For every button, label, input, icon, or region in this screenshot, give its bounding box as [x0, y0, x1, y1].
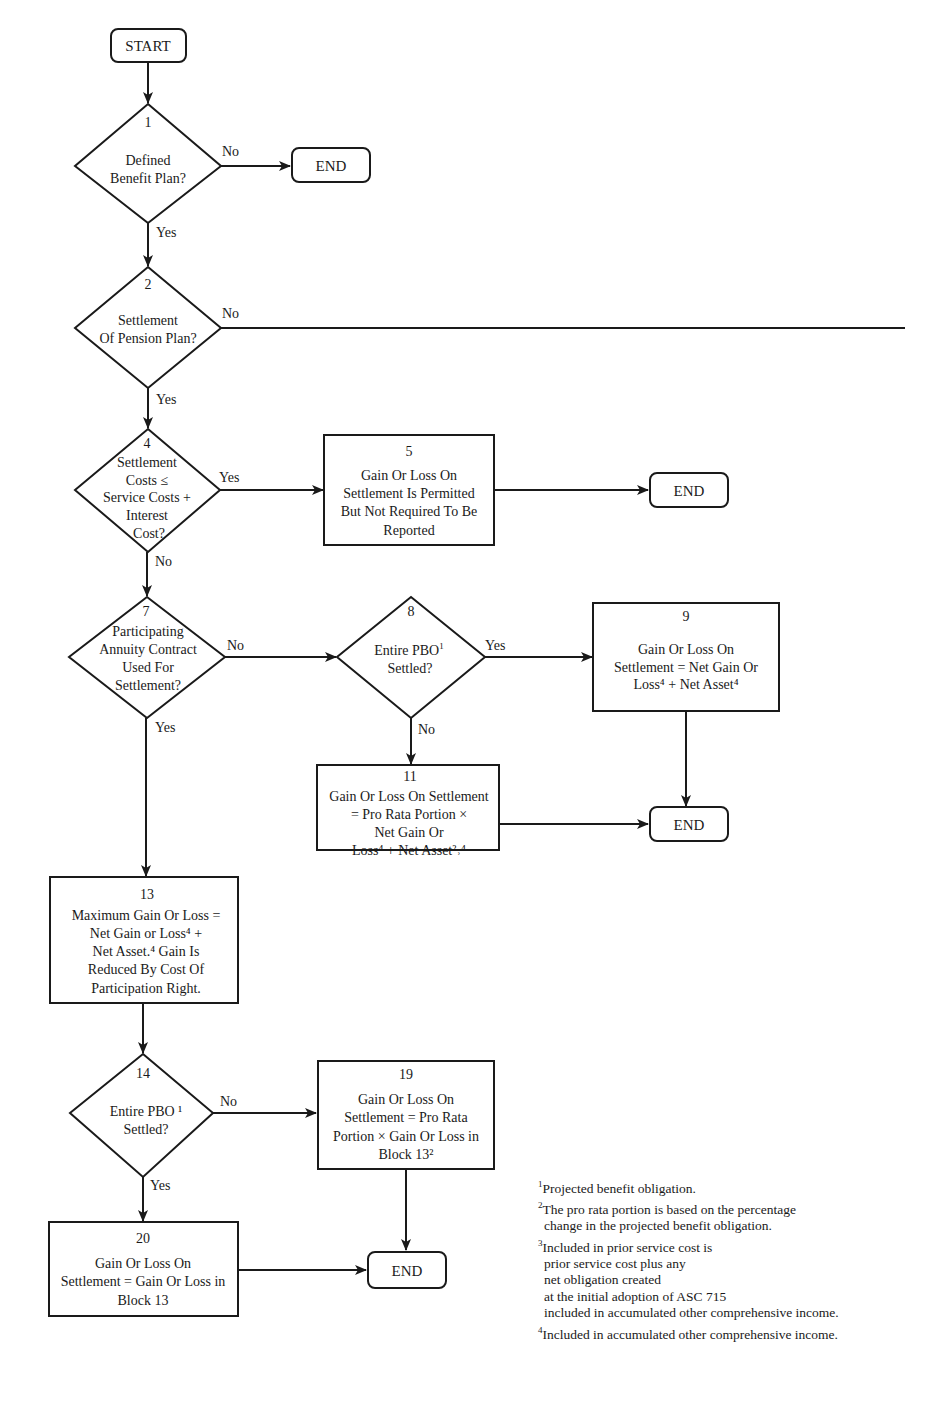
- svg-text:Block 13²: Block 13²: [378, 1147, 433, 1162]
- process-9-net-gain-or-loss: 9 Gain Or Loss On Settlement = Net Gain …: [593, 603, 779, 711]
- svg-text:Gain Or Loss On Settlement: Gain Or Loss On Settlement: [329, 789, 489, 804]
- svg-text:Entire PBO ¹: Entire PBO ¹: [110, 1104, 183, 1119]
- svg-text:20: 20: [136, 1231, 150, 1246]
- svg-text:Defined: Defined: [125, 153, 170, 168]
- svg-text:8: 8: [408, 604, 415, 619]
- edge-label-no: No: [222, 306, 239, 321]
- svg-text:But Not Required To Be: But Not Required To Be: [341, 504, 477, 519]
- footnote-3-cont: net obligation created: [538, 1272, 938, 1289]
- svg-text:END: END: [316, 158, 347, 174]
- svg-text:Block 13: Block 13: [118, 1293, 169, 1308]
- svg-text:Used For: Used For: [122, 660, 174, 675]
- end-terminal: END: [650, 473, 728, 507]
- process-19-pro-rata-block-13: 19 Gain Or Loss On Settlement = Pro Rata…: [318, 1061, 494, 1169]
- svg-text:13: 13: [140, 887, 154, 902]
- svg-text:Costs ≤: Costs ≤: [126, 473, 169, 488]
- footnote-1: 1Projected benefit obligation.: [538, 1176, 938, 1197]
- edge-label-yes: Yes: [156, 392, 176, 407]
- svg-text:Settled?: Settled?: [387, 661, 432, 676]
- edge-label-no: No: [220, 1094, 237, 1109]
- footnotes: 1Projected benefit obligation. 2The pro …: [538, 1176, 938, 1343]
- footnote-3: 3Included in prior service cost is: [538, 1235, 938, 1256]
- decision-8-entire-pbo-settled: 8 Entire PBO1 Settled?: [337, 597, 485, 718]
- svg-text:Settlement: Settlement: [118, 313, 178, 328]
- svg-text:Net Asset.⁴ Gain Is: Net Asset.⁴ Gain Is: [93, 944, 200, 959]
- edge-label-no: No: [222, 144, 239, 159]
- edge-label-yes: Yes: [150, 1178, 170, 1193]
- svg-text:11: 11: [403, 769, 416, 784]
- svg-text:1: 1: [145, 115, 152, 130]
- svg-text:Gain Or Loss On: Gain Or Loss On: [638, 642, 734, 657]
- svg-text:Entire PBO1: Entire PBO1: [374, 641, 443, 658]
- svg-text:5: 5: [406, 444, 413, 459]
- svg-text:Interest: Interest: [126, 508, 168, 523]
- edge-label-no: No: [418, 722, 435, 737]
- svg-text:Of Pension Plan?: Of Pension Plan?: [99, 331, 196, 346]
- svg-text:14: 14: [136, 1066, 150, 1081]
- footnote-4: 4Included in accumulated other comprehen…: [538, 1322, 938, 1343]
- process-13-maximum-gain-or-loss: 13 Maximum Gain Or Loss = Net Gain or Lo…: [50, 877, 238, 1003]
- decision-14-entire-pbo-settled: 14 Entire PBO ¹ Settled?: [70, 1054, 213, 1177]
- end-terminal: END: [650, 807, 728, 841]
- edge-label-yes: Yes: [219, 470, 239, 485]
- svg-text:Settlement = Net Gain Or: Settlement = Net Gain Or: [614, 660, 758, 675]
- svg-text:2: 2: [145, 277, 152, 292]
- svg-text:Annuity Contract: Annuity Contract: [99, 642, 197, 657]
- end-terminal: END: [368, 1252, 446, 1288]
- svg-text:Cost?: Cost?: [133, 526, 165, 541]
- svg-text:Loss⁴ + Net Asset²˒⁴: Loss⁴ + Net Asset²˒⁴: [352, 843, 466, 858]
- process-11-pro-rata-net-gain: 11 Gain Or Loss On Settlement = Pro Rata…: [317, 765, 499, 858]
- svg-text:Service Costs +: Service Costs +: [103, 490, 191, 505]
- svg-text:END: END: [392, 1263, 423, 1279]
- svg-text:Participating: Participating: [112, 624, 184, 639]
- svg-text:Participation Right.: Participation Right.: [91, 981, 201, 996]
- svg-text:Settlement?: Settlement?: [115, 678, 181, 693]
- process-20-gain-or-loss-block-13: 20 Gain Or Loss On Settlement = Gain Or …: [49, 1222, 238, 1316]
- decision-7-participating-annuity-contract: 7 Participating Annuity Contract Used Fo…: [69, 597, 225, 718]
- edge-label-yes: Yes: [485, 638, 505, 653]
- decision-1-defined-benefit-plan: 1 Defined Benefit Plan?: [75, 104, 221, 223]
- footnote-3-cont: prior service cost plus any: [538, 1256, 938, 1273]
- svg-text:Loss⁴ + Net Asset⁴: Loss⁴ + Net Asset⁴: [633, 677, 738, 692]
- footnote-3-cont: at the initial adoption of ASC 715: [538, 1289, 938, 1306]
- svg-text:= Pro Rata Portion ×: = Pro Rata Portion ×: [351, 807, 467, 822]
- footnote-3-cont: included in accumulated other comprehens…: [538, 1305, 938, 1322]
- svg-text:Gain Or Loss On: Gain Or Loss On: [361, 468, 457, 483]
- svg-text:Portion × Gain Or Loss in: Portion × Gain Or Loss in: [333, 1129, 479, 1144]
- svg-text:Net Gain or Loss⁴ +: Net Gain or Loss⁴ +: [90, 926, 202, 941]
- svg-text:START: START: [125, 38, 170, 54]
- edge-label-yes: Yes: [155, 720, 175, 735]
- svg-text:Benefit Plan?: Benefit Plan?: [110, 171, 186, 186]
- svg-text:Settled?: Settled?: [123, 1122, 168, 1137]
- svg-text:Reported: Reported: [383, 523, 434, 538]
- edge-label-no: No: [227, 638, 244, 653]
- svg-text:4: 4: [144, 436, 151, 451]
- svg-text:9: 9: [683, 609, 690, 624]
- svg-text:Gain Or Loss On: Gain Or Loss On: [95, 1256, 191, 1271]
- svg-text:19: 19: [399, 1067, 413, 1082]
- svg-text:END: END: [674, 483, 705, 499]
- svg-text:Settlement: Settlement: [117, 455, 177, 470]
- decision-4-settlement-costs: 4 Settlement Costs ≤ Service Costs + Int…: [75, 429, 220, 552]
- decision-2-settlement-of-pension-plan: 2 Settlement Of Pension Plan?: [75, 267, 221, 388]
- footnote-2-cont: change in the projected benefit obligati…: [538, 1218, 938, 1235]
- svg-text:Net Gain Or: Net Gain Or: [374, 825, 444, 840]
- svg-text:END: END: [674, 817, 705, 833]
- svg-text:7: 7: [143, 604, 150, 619]
- svg-text:Settlement Is Permitted: Settlement Is Permitted: [343, 486, 474, 501]
- svg-text:Maximum Gain Or Loss =: Maximum Gain Or Loss =: [72, 908, 221, 923]
- edge-label-yes: Yes: [156, 225, 176, 240]
- svg-text:Gain Or Loss On: Gain Or Loss On: [358, 1092, 454, 1107]
- svg-text:Settlement = Gain Or Loss in: Settlement = Gain Or Loss in: [61, 1274, 226, 1289]
- edge-label-no: No: [155, 554, 172, 569]
- start-terminal: START: [111, 29, 186, 62]
- end-terminal: END: [292, 148, 370, 182]
- svg-text:Settlement = Pro Rata: Settlement = Pro Rata: [344, 1110, 468, 1125]
- svg-text:Reduced By Cost Of: Reduced By Cost Of: [88, 962, 205, 977]
- footnote-2: 2The pro rata portion is based on the pe…: [538, 1197, 938, 1218]
- process-5-permitted-not-required: 5 Gain Or Loss On Settlement Is Permitte…: [324, 435, 494, 545]
